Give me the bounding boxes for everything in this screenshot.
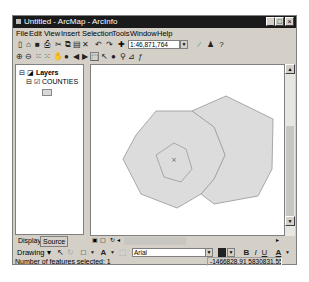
- menu-file[interactable]: File: [16, 29, 28, 38]
- editor-icon[interactable]: ⁄: [195, 40, 204, 49]
- app-icon: [16, 19, 21, 24]
- text-icon[interactable]: A: [99, 248, 108, 257]
- tools-toolbar: ⊕ ⊖ ⁙ ⁙ ✋ ● ◀ ▶ ⬚ ↖ ● ⚲ ⊿ ƒ: [13, 51, 123, 63]
- map-view-bar: ▣ ▢ ↻ ◂ ▸: [90, 236, 285, 246]
- select-elements-icon[interactable]: ↖: [100, 52, 109, 61]
- standard-toolbar: ▯ ⌂ ■ ⎙ ✂ ⧉ ▤ ✕ ↶ ↷ ✚ 1:46,871,764 ▼ ⁄ ♟…: [13, 39, 296, 51]
- cut-icon[interactable]: ✂: [54, 40, 63, 49]
- font-color-dropdown-icon[interactable]: ▼: [283, 248, 292, 257]
- fixed-zoom-out-icon[interactable]: ⁙: [43, 52, 52, 61]
- close-button[interactable]: ×: [285, 17, 294, 26]
- menu-bar: File Edit View Insert Selection Tools Wi…: [13, 28, 296, 39]
- map-canvas[interactable]: ×: [91, 65, 284, 235]
- save-icon[interactable]: ■: [33, 40, 42, 49]
- underline-button[interactable]: U: [260, 248, 269, 257]
- copy-icon[interactable]: ⧉: [63, 40, 72, 49]
- layout-view-button[interactable]: ▢: [100, 236, 106, 243]
- menu-help[interactable]: Help: [157, 29, 172, 38]
- arctoolbox-icon[interactable]: ♟: [206, 40, 215, 49]
- rotate-icon[interactable]: ↻: [66, 248, 75, 257]
- measure-icon[interactable]: ⊿: [127, 52, 136, 61]
- scroll-left-button[interactable]: ◂: [117, 236, 120, 243]
- drawing-label: Drawing: [17, 248, 45, 257]
- status-coordinates: -1466828.91 5830831.55 Meters: [207, 257, 282, 266]
- tab-source[interactable]: Source: [40, 236, 68, 247]
- pan-icon[interactable]: ✋: [53, 52, 62, 61]
- map-vertical-scrollbar[interactable]: ▲ ▼: [285, 64, 295, 236]
- collapse-icon[interactable]: ⊟: [26, 78, 32, 85]
- full-extent-icon[interactable]: ●: [62, 52, 71, 61]
- scroll-up-button[interactable]: ▲: [285, 64, 295, 74]
- font-color-icon[interactable]: A: [274, 248, 283, 257]
- window-title: Untitled - ArcMap - ArcInfo: [24, 17, 117, 27]
- layers-icon: ◪: [27, 69, 34, 76]
- arcmap-window: Untitled - ArcMap - ArcInfo _ □ × File E…: [12, 15, 297, 265]
- status-bar: Number of features selected: 1 -1466828.…: [13, 259, 296, 265]
- font-size-dropdown-button[interactable]: ▼: [227, 248, 235, 257]
- italic-button[interactable]: I: [251, 248, 260, 257]
- minimize-button[interactable]: _: [266, 17, 275, 26]
- status-message: Number of features selected: 1: [15, 257, 111, 266]
- new-icon[interactable]: ▯: [15, 40, 24, 49]
- data-view-button[interactable]: ▣: [92, 236, 98, 243]
- layers-label: Layers: [36, 69, 59, 76]
- delete-icon[interactable]: ✕: [81, 40, 90, 49]
- hscroll-thumb[interactable]: [124, 237, 186, 245]
- text-dropdown-icon[interactable]: ▼: [108, 248, 117, 257]
- whats-this-icon[interactable]: ?: [217, 40, 226, 49]
- rectangle-dropdown-icon[interactable]: ▼: [88, 248, 97, 257]
- fixed-zoom-in-icon[interactable]: ⁙: [34, 52, 43, 61]
- select-features-icon[interactable]: ⬚: [90, 52, 99, 61]
- scroll-thumb[interactable]: [286, 126, 294, 224]
- layers-group[interactable]: ⊟ ◪ Layers: [19, 68, 58, 77]
- callout-icon[interactable]: ⬚: [118, 248, 127, 257]
- layer-symbol-swatch[interactable]: [42, 89, 52, 96]
- visibility-checkbox[interactable]: ☑: [34, 78, 40, 85]
- layer-name: COUNTIES: [42, 78, 78, 85]
- zoom-in-icon[interactable]: ⊕: [15, 52, 24, 61]
- select-elements-icon[interactable]: ↖: [56, 248, 65, 257]
- font-name-input[interactable]: Arial: [132, 248, 212, 257]
- menu-tools[interactable]: Tools: [112, 29, 130, 38]
- paste-icon[interactable]: ▤: [72, 40, 81, 49]
- scroll-right-button[interactable]: ▸: [276, 236, 279, 243]
- map-scale-input[interactable]: 1:46,871,764: [128, 40, 180, 49]
- collapse-icon[interactable]: ⊟: [19, 69, 25, 76]
- undo-icon[interactable]: ↶: [94, 40, 103, 49]
- title-bar: Untitled - ArcMap - ArcInfo _ □ ×: [13, 16, 296, 28]
- zoom-out-icon[interactable]: ⊖: [24, 52, 33, 61]
- find-icon[interactable]: ⚲: [118, 52, 127, 61]
- back-icon[interactable]: ◀: [71, 52, 80, 61]
- tab-display[interactable]: Display: [16, 236, 43, 246]
- menu-insert[interactable]: Insert: [61, 29, 80, 38]
- add-data-icon[interactable]: ✚: [117, 40, 126, 49]
- refresh-button[interactable]: ↻: [110, 236, 115, 243]
- print-icon[interactable]: ⎙: [42, 40, 51, 49]
- menu-selection[interactable]: Selection: [82, 29, 113, 38]
- identify-icon[interactable]: ●: [109, 52, 118, 61]
- table-of-contents: ⊟ ◪ Layers ⊟ ☑ COUNTIES: [15, 64, 84, 235]
- scale-dropdown-button[interactable]: ▼: [180, 40, 188, 49]
- maximize-button[interactable]: □: [275, 17, 284, 26]
- redo-icon[interactable]: ↷: [105, 40, 114, 49]
- scroll-down-button[interactable]: ▼: [285, 216, 295, 226]
- map-display[interactable]: ×: [90, 64, 285, 236]
- menu-view[interactable]: View: [44, 29, 60, 38]
- center-marker: ×: [171, 156, 177, 164]
- drawing-menu[interactable]: Drawing ▾: [17, 248, 51, 257]
- font-color-box[interactable]: [218, 248, 226, 257]
- font-dropdown-button[interactable]: ▼: [205, 248, 213, 257]
- hyperlink-icon[interactable]: ƒ: [136, 52, 145, 61]
- layer-counties[interactable]: ⊟ ☑ COUNTIES: [26, 77, 78, 86]
- rectangle-icon[interactable]: □: [79, 248, 88, 257]
- menu-window[interactable]: Window: [130, 29, 157, 38]
- menu-edit[interactable]: Edit: [29, 29, 42, 38]
- forward-icon[interactable]: ▶: [80, 52, 89, 61]
- open-icon[interactable]: ⌂: [24, 40, 33, 49]
- bold-button[interactable]: B: [242, 248, 251, 257]
